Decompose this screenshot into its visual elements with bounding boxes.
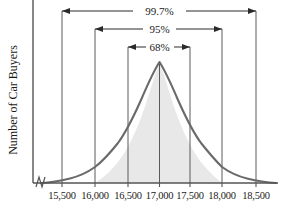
x-tick-label-15500: 15,500 [48,190,76,201]
bracket-95-arrowhead-left [95,26,103,32]
bracket-99-7-arrowhead-right [248,8,256,14]
bracket-68: 68% [128,41,190,53]
bracket-99-7-arrowhead-left [62,8,70,14]
bracket-label-99-7: 99.7% [145,5,173,17]
x-tick-label-18500: 18,500 [242,190,270,201]
bracket-95-arrowhead-right [214,26,222,32]
bracket-68-arrowhead-left [128,44,136,50]
x-tick-label-16000: 16,000 [81,190,109,201]
x-tick-label-18000: 18,000 [208,190,236,201]
bracket-95: 95% [95,23,222,35]
x-tick-label-16500: 16,500 [114,190,142,201]
bracket-label-95: 95% [149,23,169,35]
chart-canvas: 15,500 16,000 16,500 17,000 17,500 18,00… [0,0,285,212]
x-tick-label-17000: 17,000 [146,190,174,201]
y-axis-title: Number of Car Buyers [6,45,20,155]
x-tick-label-17500: 17,500 [176,190,204,201]
normal-distribution-chart: 15,500 16,000 16,500 17,000 17,500 18,00… [0,0,285,212]
bracket-99-7: 99.7% [62,5,256,17]
axis-break-zigzag-icon [36,177,45,187]
bracket-label-68: 68% [149,41,169,53]
bracket-68-arrowhead-right [182,44,190,50]
shaded-area-region [95,62,222,183]
